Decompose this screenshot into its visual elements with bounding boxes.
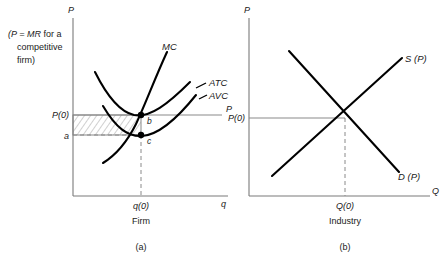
supply-curve-label: S (P) xyxy=(405,53,427,64)
point-c-label: c xyxy=(147,136,152,146)
panel-a-y-axis-label: P xyxy=(68,5,74,15)
panel-a-cost-tick-label: a xyxy=(64,131,69,141)
note-line-1: (P = MR for a xyxy=(8,29,61,39)
note-line-2: competitive xyxy=(17,42,63,52)
panel-a-caption: Firm xyxy=(132,216,150,226)
competitive-firm-note: (P = MR for a competitive firm) xyxy=(8,29,63,65)
panel-b-letter: (b) xyxy=(340,242,351,252)
atc-curve-label: ATC xyxy=(208,77,227,88)
note-line-1-italic: (P = MR xyxy=(8,29,41,39)
panel-a-x-axis-label: q xyxy=(221,199,226,209)
panel-a-price-tick-label: P(0) xyxy=(52,110,69,120)
panel-b-y-axis-label: P xyxy=(244,5,250,15)
panel-b-caption: Industry xyxy=(329,216,362,226)
mc-curve xyxy=(103,52,167,163)
panel-b-group: P Q S (P) D (P) P(0) Q(0) Industry (b) xyxy=(228,5,439,252)
atc-leader xyxy=(196,83,206,88)
point-b-label: b xyxy=(147,116,152,126)
avc-curve-label: AVC xyxy=(208,90,228,101)
point-b-marker xyxy=(138,112,144,118)
mc-curve-label: MC xyxy=(162,41,177,52)
panel-a-group: P q P MC ATC AVC P(0) a q(0) b c Firm (a… xyxy=(52,5,232,252)
point-c-marker xyxy=(138,132,144,138)
note-line-3: firm) xyxy=(17,55,35,65)
note-line-1-rest: for a xyxy=(41,29,62,39)
panel-b-quantity-tick-label: Q(0) xyxy=(336,201,354,211)
economics-figure: P q P MC ATC AVC P(0) a q(0) b c Firm (a… xyxy=(0,0,446,268)
avc-leader xyxy=(199,95,207,99)
panel-a-letter: (a) xyxy=(136,242,147,252)
panel-a-quantity-tick-label: q(0) xyxy=(133,201,149,211)
demand-curve-label: D (P) xyxy=(398,171,420,182)
figure-container: P q P MC ATC AVC P(0) a q(0) b c Firm (a… xyxy=(0,0,446,268)
supply-curve xyxy=(272,58,402,176)
panel-b-price-tick-label: P(0) xyxy=(228,113,245,123)
panel-b-x-axis-label: Q xyxy=(432,186,439,196)
